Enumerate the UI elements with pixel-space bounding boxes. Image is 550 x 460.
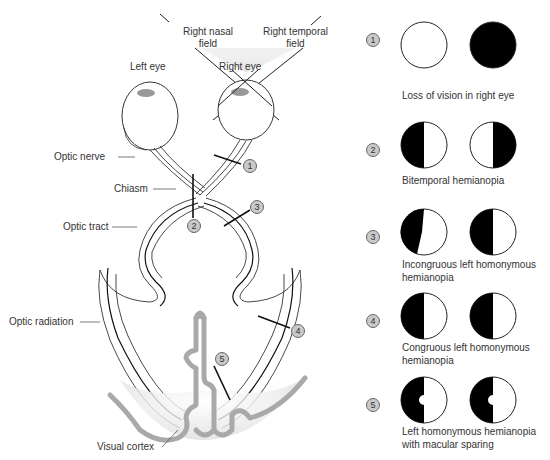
- label-right-eye: Right eye: [219, 61, 261, 73]
- legend-caption-4-line1: Congruous left homonymous: [402, 342, 550, 355]
- optic-nerves: [150, 140, 252, 196]
- field-left-eye-temporal-half-blind: [400, 121, 448, 169]
- legend-caption-1: Loss of vision in right eye: [402, 90, 550, 103]
- lesion-lines: [193, 155, 290, 400]
- legend-caption-5-line1: Left homonymous hemianopia: [402, 426, 550, 439]
- legend-badge-3: 3: [366, 230, 380, 244]
- legend-caption-4: Congruous left homonymous hemianopia: [402, 342, 550, 367]
- lesion-badge-1: 1: [243, 159, 257, 173]
- legend-caption-3: Incongruous left homonymous hemianopia: [402, 259, 550, 284]
- label-chiasm: Chiasm: [114, 183, 148, 195]
- label-optic-tract: Optic tract: [63, 221, 109, 233]
- legend-caption-4-line2: hemianopia: [402, 355, 550, 368]
- legend-badge-1: 1: [366, 33, 380, 47]
- legend-caption-3-line1: Incongruous left homonymous: [402, 259, 550, 272]
- lesion-badge-2: 2: [187, 219, 201, 233]
- label-visual-cortex: Visual cortex: [97, 441, 154, 453]
- label-optic-nerve: Optic nerve: [54, 151, 105, 163]
- label-right-temporal-field-line2: field: [263, 38, 328, 50]
- legend-caption-5-line2: with macular sparing: [402, 439, 550, 452]
- lesion-badge-5: 5: [215, 352, 229, 366]
- label-right-nasal-field-line2: field: [183, 38, 233, 50]
- legend-badge-5: 5: [366, 398, 380, 412]
- right-eye: [218, 70, 274, 140]
- legend-badge-2: 2: [366, 143, 380, 157]
- field-right-eye-temporal-half-blind: [469, 121, 517, 169]
- field-left-eye-left-half-blind: [400, 292, 448, 340]
- field-left-eye-full: [400, 21, 448, 69]
- field-left-eye-incongruous: [400, 208, 448, 256]
- label-right-temporal-field: Right temporal field: [263, 26, 328, 50]
- lesion-badge-4: 4: [291, 324, 305, 338]
- field-right-eye-left-half-blind: [469, 292, 517, 340]
- field-right-eye-left-half-blind: [469, 208, 517, 256]
- legend-caption-3-line2: hemianopia: [402, 272, 550, 285]
- label-right-temporal-field-line1: Right temporal: [263, 26, 328, 38]
- legend-caption-5: Left homonymous hemianopia with macular …: [402, 426, 550, 451]
- field-left-eye-macular-sparing: [400, 376, 448, 424]
- legend-badge-4: 4: [366, 314, 380, 328]
- field-right-eye-blind: [469, 21, 517, 69]
- label-right-nasal-field-line1: Right nasal: [183, 26, 233, 38]
- lesion-badge-3: 3: [250, 200, 264, 214]
- legend-caption-2: Bitemporal hemianopia: [402, 175, 550, 188]
- field-right-eye-macular-sparing: [469, 376, 517, 424]
- label-right-nasal-field: Right nasal field: [183, 26, 233, 50]
- left-eye: [122, 82, 178, 150]
- label-optic-radiation: Optic radiation: [9, 316, 73, 328]
- label-left-eye: Left eye: [130, 61, 166, 73]
